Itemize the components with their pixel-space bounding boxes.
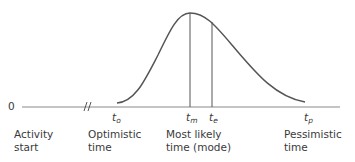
- origin-label: 0: [8, 100, 15, 113]
- tick-most-likely: tm: [186, 111, 197, 125]
- beta-distribution-curve: [117, 13, 305, 103]
- label-pessimistic-time: Pessimistic time: [284, 128, 342, 154]
- label-activity-start: Activity start: [14, 128, 53, 154]
- tick-optimistic: to: [112, 111, 121, 125]
- label-most-likely-time: Most likely time (mode): [166, 128, 231, 154]
- tick-pessimistic: tp: [304, 111, 313, 125]
- tick-expected: te: [209, 111, 218, 125]
- label-optimistic-time: Optimistic time: [88, 128, 141, 154]
